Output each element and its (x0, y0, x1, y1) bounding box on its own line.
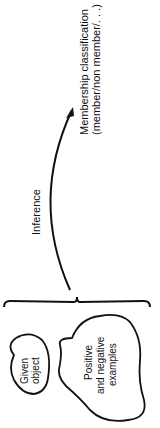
arrowhead-icon (66, 107, 74, 118)
diagram-canvas: Membership classification (member/non me… (0, 0, 160, 428)
membership-classification-label: Membership classification (member/non me… (78, 4, 102, 135)
inference-arrow (50, 110, 72, 290)
grouping-brace (4, 297, 150, 307)
svg-text:Inference: Inference (30, 189, 42, 235)
svg-text:and negative: and negative (95, 336, 106, 394)
svg-text:Membership classification: Membership classification (78, 9, 90, 135)
svg-text:examples: examples (107, 343, 118, 386)
svg-text:object: object (30, 357, 41, 384)
examples-label: Positive and negative examples (83, 336, 118, 394)
svg-text:Given: Given (19, 358, 30, 384)
svg-text:(member/non member/. . .): (member/non member/. . .) (90, 4, 102, 135)
svg-text:Positive: Positive (83, 345, 94, 380)
inference-label: Inference (30, 189, 42, 235)
given-object-label: Given object (19, 357, 41, 384)
